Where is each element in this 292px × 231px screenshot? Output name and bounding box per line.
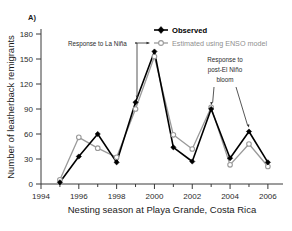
x-tick-label: 1996: [70, 192, 88, 201]
annotation-bloom-label-line1: Response to: [207, 56, 243, 64]
y-tick-label: 0: [29, 180, 34, 189]
legend-label-estimated: Estimated using ENSO model: [172, 39, 267, 48]
data-point-estimated: [77, 135, 82, 140]
x-tick-label: 2000: [146, 192, 164, 201]
y-tick-label: 60: [24, 130, 33, 139]
panel-label: A): [28, 13, 36, 22]
data-point-estimated: [152, 54, 157, 59]
data-point-estimated: [171, 133, 176, 138]
x-tick-label: 2006: [259, 192, 277, 201]
data-point-observed: [152, 49, 157, 54]
y-axis-title: Number of leatherback remigrants: [5, 35, 16, 179]
x-tick-label: 2002: [183, 192, 201, 201]
x-tick-label: 2004: [221, 192, 239, 201]
legend-label-observed: Observed: [172, 26, 207, 35]
x-tick-label: 1994: [32, 192, 50, 201]
chart-figure: A) 0306090120150180 19941996199820002002…: [0, 0, 292, 231]
legend: Observed Estimated using ENSO model: [154, 26, 267, 48]
y-tick-label: 120: [20, 80, 34, 89]
legend-marker-observed: [158, 27, 164, 34]
x-axis-ticks: 1994199619982000200220042006: [32, 184, 277, 201]
y-axis-ticks: 0306090120150180: [20, 30, 41, 189]
x-axis-title: Nesting season at Playa Grande, Costa Ri…: [68, 204, 257, 215]
data-point-estimated: [95, 146, 100, 151]
y-tick-label: 30: [24, 155, 33, 164]
y-tick-label: 90: [24, 105, 33, 114]
annotation-bloom-label-line3: bloom: [216, 76, 233, 83]
annotation-bloom-label-line2: post-El Niño: [208, 66, 243, 74]
data-point-estimated: [133, 107, 138, 112]
annotation-bloom-arrow-left: [213, 87, 214, 103]
data-point-estimated: [190, 147, 195, 152]
legend-marker-estimated: [159, 41, 164, 46]
axis-group: [41, 29, 283, 184]
data-point-estimated: [228, 163, 233, 168]
y-tick-label: 180: [20, 30, 34, 39]
annotation-arrowhead: [147, 42, 150, 45]
series-line-estimated: [60, 57, 268, 180]
annotation-la-nina-drop: [135, 43, 137, 95]
line-chart: A) 0306090120150180 19941996199820002002…: [0, 0, 292, 231]
annotation-la-nina-label: Response to La Niña: [68, 40, 127, 48]
annotation-bloom-arrow-right: [236, 87, 247, 125]
annotation-la-nina: Response to La Niña: [68, 40, 149, 95]
x-tick-label: 1998: [108, 192, 126, 201]
data-point-estimated: [114, 155, 119, 160]
y-tick-label: 150: [20, 55, 34, 64]
data-point-estimated: [247, 142, 252, 147]
